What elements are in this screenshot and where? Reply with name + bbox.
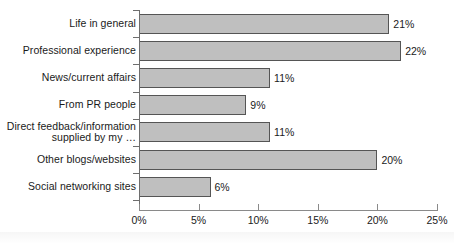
bar-value-label: 6% (211, 173, 230, 200)
value-axis-tick-label: 15% (307, 214, 328, 226)
value-axis-tick-label: 25% (426, 214, 447, 226)
value-axis-tick-label: 20% (367, 214, 388, 226)
category-axis-tick (133, 146, 139, 147)
bar-row: From PR people 9% (0, 92, 454, 119)
bar (139, 41, 401, 61)
category-label: Other blogs/websites (0, 146, 139, 173)
bar-row: Professional experience 22% (0, 37, 454, 64)
bar-row: Life in general 21% (0, 10, 454, 37)
value-axis-tick-label: 0% (131, 214, 146, 226)
category-label: News/current affairs (0, 64, 139, 91)
bar (139, 177, 211, 197)
category-axis-line (139, 10, 140, 210)
bar-row: News/current affairs 11% (0, 64, 454, 91)
bar-row: Direct feedback/information supplied by … (0, 119, 454, 146)
value-axis-tick (318, 204, 319, 210)
value-axis-tick (377, 204, 378, 210)
category-axis-tick (133, 37, 139, 38)
category-label: Life in general (0, 10, 139, 37)
bar-value-label: 22% (401, 37, 426, 64)
value-axis-tick (139, 204, 140, 210)
category-axis-tick (133, 10, 139, 11)
category-label: From PR people (0, 92, 139, 119)
bar (139, 68, 270, 88)
value-axis-tick (258, 204, 259, 210)
category-label: Professional experience (0, 37, 139, 64)
bar-value-label: 21% (389, 10, 414, 37)
bar-value-label: 11% (270, 119, 294, 146)
scan-artifact (0, 232, 454, 244)
category-label: Social networking sites (0, 173, 139, 200)
bar-value-label: 11% (270, 64, 294, 91)
bar-row: Other blogs/websites 20% (0, 146, 454, 173)
value-axis-tick (437, 204, 438, 210)
category-axis-tick (133, 200, 139, 201)
category-axis-tick (133, 173, 139, 174)
value-axis-tick (199, 204, 200, 210)
bar-value-label: 9% (246, 92, 265, 119)
category-axis-tick (133, 119, 139, 120)
bar (139, 122, 270, 142)
bar-value-label: 20% (377, 146, 402, 173)
category-label: Direct feedback/information supplied by … (0, 119, 139, 146)
bar-row: Social networking sites 6% (0, 173, 454, 200)
bar (139, 150, 377, 170)
bar (139, 14, 389, 34)
bar-chart: Life in general 21% Professional experie… (0, 0, 454, 244)
bar (139, 95, 246, 115)
value-axis-tick-label: 5% (191, 214, 206, 226)
category-axis-tick (133, 64, 139, 65)
category-axis-tick (133, 92, 139, 93)
value-axis-tick-label: 10% (248, 214, 269, 226)
chart-plot-area: Life in general 21% Professional experie… (0, 10, 454, 200)
value-axis-line (139, 210, 438, 211)
